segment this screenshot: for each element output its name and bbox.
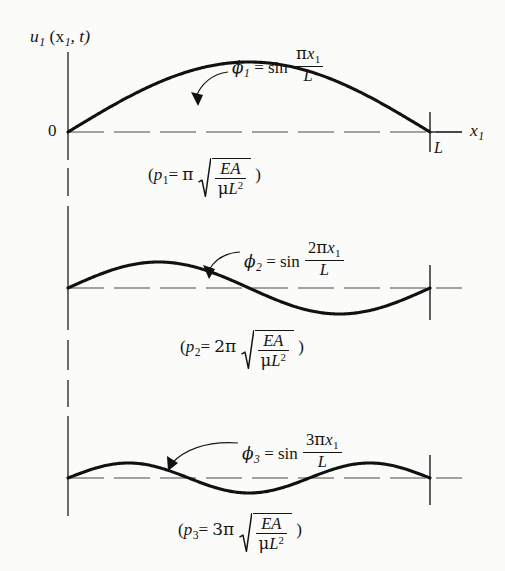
mode-3-numerator-var: x	[325, 430, 332, 449]
mode-3-freq-close-paren: )	[296, 520, 302, 539]
x-axis-label-symbol: x	[470, 120, 478, 140]
mode-2-radicand-fraction: EA μL2	[258, 333, 289, 370]
diagram-canvas	[0, 0, 505, 571]
mode-2-sin: sin	[280, 252, 300, 271]
mode-2-phi-symbol: ϕ	[244, 251, 256, 271]
mode-2-freq-symbol: p	[186, 337, 195, 356]
mode-2-numerator-pi: π	[316, 238, 327, 257]
mode-3-freq-symbol: p	[184, 520, 193, 539]
radical-sign-icon	[198, 157, 211, 197]
mode-1-numerator-var: x	[307, 44, 314, 63]
mode-2-radicand-numerator: EA	[258, 333, 289, 351]
mode-3-radicand-exponent: 2	[278, 534, 283, 546]
mode-1-fraction-denominator: L	[293, 67, 323, 84]
mode-2-radicand-mu: μ	[261, 352, 272, 371]
mode-1-radicand-denominator: μL2	[215, 179, 246, 198]
mode-1-freq-equals: =	[168, 165, 178, 184]
mode-1-phi-subscript: 1	[244, 67, 250, 80]
mode-3-phi-symbol: ϕ	[242, 443, 254, 463]
mode-1-numerator-var-sub: 1	[315, 53, 321, 65]
mode-3-radical: EA μL2	[239, 513, 292, 553]
mode-3-radicand-numerator: EA	[256, 516, 287, 534]
mode-1-phi-symbol: ϕ	[232, 57, 244, 77]
mode-1-equals: =	[254, 58, 264, 77]
mode-2-numerator-var: x	[327, 238, 334, 257]
mode-1-leader-line	[196, 72, 228, 97]
mode-3-radicand-mu: μ	[259, 535, 270, 554]
mode-2-leader-line	[209, 252, 240, 270]
mode-1-radicand: EA μL2	[212, 158, 251, 198]
mode-2-fraction-denominator: L	[305, 261, 344, 278]
mode-3-shape-annotation: ϕ3 = sin 3πx1 L	[242, 432, 343, 470]
radical-sign-icon	[239, 512, 252, 552]
y-axis-label-arg-open: (x	[50, 26, 65, 46]
mode-2-fraction-numerator: 2πx1	[305, 240, 344, 261]
mode-2-freq-coefficient: 2π	[214, 336, 236, 356]
mode-2-radicand-exponent: 2	[280, 351, 285, 363]
origin-label: 0	[48, 122, 57, 139]
mode-3-frequency-annotation: (p3= 3π EA μL2 )	[178, 513, 302, 553]
mode-1-radicand-mu: μ	[218, 180, 229, 199]
mode-1-argument-fraction: πx1 L	[293, 46, 323, 84]
mode-3-numerator-var-sub: 1	[333, 439, 339, 451]
y-axis-label-arg-tail: , t)	[71, 26, 90, 46]
mode-1-freq-coefficient: π	[182, 164, 193, 184]
mode-1-shape-annotation: ϕ1 = sin πx1 L	[232, 46, 324, 84]
mode-3-radicand-fraction: EA μL2	[256, 516, 287, 553]
length-tick-label: L	[434, 140, 443, 156]
mode-2-equals: =	[266, 252, 276, 271]
mode-3-freq-coefficient: 3π	[212, 519, 234, 539]
mode-1-radicand-L: L	[228, 180, 237, 199]
mode-2-freq-equals: =	[200, 337, 210, 356]
mode-2-radical: EA μL2	[241, 330, 294, 370]
mode-1-radical: EA μL2	[198, 158, 251, 198]
mode-3-phi-subscript: 3	[254, 453, 260, 466]
mode-2-phi-subscript: 2	[256, 261, 262, 274]
y-axis-label: u1 (x1, t)	[30, 28, 90, 49]
mode-1-fraction-numerator: πx1	[293, 46, 323, 67]
mode-2-argument-fraction: 2πx1 L	[305, 240, 344, 278]
mode-2-radicand: EA μL2	[255, 330, 294, 370]
mode-3-sin: sin	[278, 444, 298, 463]
mode-1-frequency-annotation: (p1= π EA μL2 )	[148, 158, 261, 198]
mode-1-leader-arrowhead	[191, 92, 203, 106]
mode-3-equals: =	[264, 444, 274, 463]
mode-3-radicand: EA μL2	[253, 513, 292, 553]
mode-1-radicand-fraction: EA μL2	[215, 161, 246, 198]
mode-2-numerator-var-sub: 1	[335, 247, 341, 259]
mode-3-radicand-denominator: μL2	[256, 534, 287, 553]
mode-2-radicand-denominator: μL2	[258, 351, 289, 370]
mode-3-fraction-numerator: 3πx1	[303, 432, 342, 453]
mode-3-numerator-pi: π	[314, 430, 325, 449]
mode-3-argument-fraction: 3πx1 L	[303, 432, 342, 470]
x-axis-label: x1	[470, 122, 484, 143]
mode-3-freq-equals: =	[198, 520, 208, 539]
mode-2-leader-arrowhead	[203, 265, 215, 279]
y-axis-label-symbol: u	[30, 26, 39, 46]
radical-sign-icon	[241, 329, 254, 369]
mode-1-numerator-pi: π	[296, 44, 307, 63]
mode-3-fraction-denominator: L	[303, 453, 342, 470]
x-axis-label-subscript: 1	[478, 129, 484, 143]
mode-shapes-figure: u1 (x1, t) 0 x1 L ϕ1 = sin πx1 L (p1= π …	[0, 0, 505, 571]
mode-1-radicand-exponent: 2	[238, 179, 243, 191]
mode-1-radicand-numerator: EA	[215, 161, 246, 179]
mode-2-shape-annotation: ϕ2 = sin 2πx1 L	[244, 240, 345, 278]
mode-2-freq-close-paren: )	[298, 337, 304, 356]
mode-2-frequency-annotation: (p2= 2π EA μL2 )	[180, 330, 304, 370]
mode-1-freq-symbol: p	[154, 165, 163, 184]
mode-3-leader-line	[172, 443, 238, 463]
mode-1-sin: sin	[268, 58, 288, 77]
mode-1-freq-close-paren: )	[255, 165, 261, 184]
